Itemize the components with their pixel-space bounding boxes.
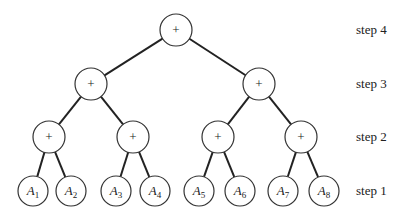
sum-node: + xyxy=(285,121,317,153)
tree-edge xyxy=(101,97,123,125)
sum-node: + xyxy=(117,121,149,153)
sum-node: + xyxy=(202,121,234,153)
tree-edge xyxy=(204,152,213,177)
tree-edges xyxy=(37,39,318,178)
leaf-subscript: 2 xyxy=(73,190,78,200)
leaf-subscript: 5 xyxy=(201,190,206,200)
leaf-subscript: 4 xyxy=(157,190,162,200)
plus-operator: + xyxy=(172,22,179,37)
tree-edge xyxy=(307,152,318,177)
plus-operator: + xyxy=(87,76,94,91)
step-1-label: step 1 xyxy=(356,183,406,199)
leaf-node-a3: A3 xyxy=(101,176,131,206)
tree-edge xyxy=(139,152,149,177)
step-4-label: step 4 xyxy=(356,22,406,38)
step-3-label: step 3 xyxy=(356,76,406,92)
step-2-label: step 2 xyxy=(356,129,406,145)
leaf-subscript: 8 xyxy=(326,190,331,200)
tree-edge xyxy=(228,97,249,125)
tree-edge xyxy=(288,152,296,177)
tree-edge xyxy=(105,39,163,76)
leaf-node-a8: A8 xyxy=(309,176,339,206)
sum-node: + xyxy=(243,68,275,100)
leaf-subscript: 7 xyxy=(285,190,290,200)
leaf-subscript: 3 xyxy=(118,190,123,200)
leaf-node-a4: A4 xyxy=(140,176,170,206)
leaf-subscript: 1 xyxy=(35,190,40,200)
tree-edge xyxy=(121,152,129,176)
plus-operator: + xyxy=(297,129,304,144)
plus-operator: + xyxy=(129,129,136,144)
reduction-tree: +++++++A1A2A3A4A5A6A7A8 xyxy=(0,0,413,217)
leaf-node-a1: A1 xyxy=(18,176,48,206)
plus-operator: + xyxy=(214,129,221,144)
plus-operator: + xyxy=(45,129,52,144)
tree-edge xyxy=(269,97,291,125)
tree-nodes: +++++++A1A2A3A4A5A6A7A8 xyxy=(18,14,339,206)
leaf-node-a2: A2 xyxy=(56,176,86,206)
tree-edge xyxy=(37,152,44,176)
tree-edge xyxy=(59,97,81,125)
tree-edge xyxy=(189,39,245,76)
sum-node: + xyxy=(160,14,192,46)
leaf-node-a6: A6 xyxy=(225,176,255,206)
leaf-node-a5: A5 xyxy=(184,176,214,206)
leaf-node-a7: A7 xyxy=(268,176,298,206)
plus-operator: + xyxy=(255,76,262,91)
sum-node: + xyxy=(75,68,107,100)
sum-node: + xyxy=(33,121,65,153)
tree-edge xyxy=(224,152,234,177)
leaf-subscript: 6 xyxy=(242,190,247,200)
tree-edge xyxy=(55,152,65,177)
